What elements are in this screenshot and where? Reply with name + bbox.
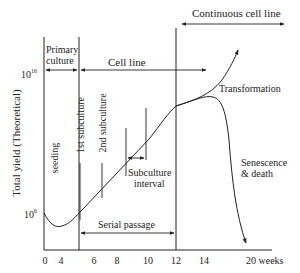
senescence-curve (176, 97, 246, 243)
subculture-interval-label-2: interval (134, 178, 165, 189)
first-subculture-label: 1st subculture (75, 97, 86, 153)
x-tick-6: 6 (92, 255, 97, 266)
y-axis-label: Total yield (Theoretical) (10, 89, 23, 197)
transformation-curve (176, 50, 238, 106)
senescence-label-1: Senescence (241, 157, 288, 168)
y-tick-10-6: 106 (24, 208, 37, 220)
cell-line-label: Cell line (108, 56, 146, 68)
x-tick-12: 12 (171, 255, 181, 266)
x-tick-0: 0 (43, 255, 48, 266)
senescence-label-2: & death (241, 168, 273, 179)
subculture-interval-label-1: Subculture (128, 167, 172, 178)
x-tick-4: 4 (59, 255, 64, 266)
cell-culture-growth-diagram: Total yield (Theoretical) 1016 106 0 4 6… (0, 0, 300, 273)
serial-passage-label: Serial passage (98, 219, 155, 230)
primary-culture-label-1: Primary (46, 44, 78, 55)
y-tick-10-16: 1016 (21, 68, 37, 80)
x-tick-20-weeks: 20 weeks (246, 255, 284, 266)
seeding-label: seeding (49, 143, 60, 174)
second-subculture-label: 2nd subculture (97, 93, 108, 153)
transformation-label: Transformation (219, 83, 281, 94)
x-tick-14: 14 (199, 255, 209, 266)
x-tick-8: 8 (115, 255, 120, 266)
continuous-cell-line-label: Continuous cell line (192, 7, 281, 19)
x-tick-10: 10 (143, 255, 153, 266)
primary-culture-label-2: culture (46, 55, 74, 66)
